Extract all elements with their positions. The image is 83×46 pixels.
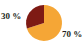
- pie-label-70: 70 %: [62, 29, 82, 39]
- pie-chart: 30 % 70 %: [0, 0, 83, 46]
- pie-chart-graphic: [0, 0, 83, 46]
- pie-label-30: 30 %: [1, 11, 21, 21]
